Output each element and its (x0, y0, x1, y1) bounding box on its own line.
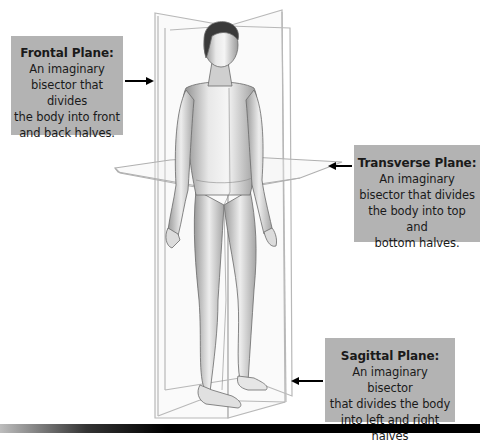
label-title: Transverse Plane: (357, 155, 477, 171)
sagittal-arrow (291, 377, 323, 385)
sagittal-plane-label: Sagittal Plane: An imaginary bisector th… (325, 338, 455, 422)
frontal-plane-label: Frontal Plane: An imaginary bisector tha… (11, 36, 123, 135)
bottom-divider-bar (0, 424, 480, 433)
label-line: that divides the body (328, 396, 452, 412)
frontal-arrow (125, 77, 154, 85)
label-line: bottom halves. (357, 235, 477, 251)
label-line: bisector that divides (14, 77, 120, 109)
label-line: An imaginary bisector (328, 364, 452, 396)
label-line: bisector that divides (357, 187, 477, 203)
label-line: and back halves. (14, 125, 120, 141)
label-title: Frontal Plane: (14, 45, 120, 61)
label-line: An imaginary (14, 61, 120, 77)
label-line: An imaginary (357, 171, 477, 187)
label-line: the body into front (14, 109, 120, 125)
label-line: the body into top and (357, 203, 477, 235)
label-title: Sagittal Plane: (328, 348, 452, 364)
transverse-plane-label: Transverse Plane: An imaginary bisector … (354, 145, 480, 242)
